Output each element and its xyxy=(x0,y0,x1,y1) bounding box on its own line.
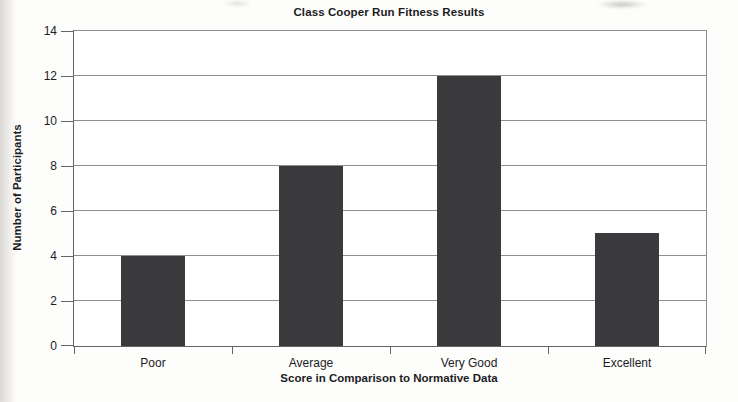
y-tick-10 xyxy=(61,121,74,122)
y-tick-label-10: 10 xyxy=(19,114,57,128)
y-tick-label-12: 12 xyxy=(19,69,57,83)
y-tick-label-2: 2 xyxy=(19,294,57,308)
y-tick-6 xyxy=(61,211,74,212)
x-tick-2 xyxy=(390,346,391,354)
y-tick-8 xyxy=(61,166,74,167)
category-label-average: Average xyxy=(232,356,390,370)
gridline-6 xyxy=(74,210,706,211)
plot-area: 02468101214PoorAverageVery GoodExcellent xyxy=(73,30,707,347)
bar-poor xyxy=(121,256,185,346)
y-axis-title: Number of Participants xyxy=(11,108,26,268)
y-tick-label-0: 0 xyxy=(19,339,57,353)
y-tick-4 xyxy=(61,256,74,257)
chart-title: Class Cooper Run Fitness Results xyxy=(73,6,705,18)
y-tick-label-4: 4 xyxy=(19,249,57,263)
x-tick-1 xyxy=(232,346,233,354)
bar-very-good xyxy=(437,76,501,346)
x-tick-0 xyxy=(74,346,75,354)
category-label-excellent: Excellent xyxy=(548,356,706,370)
category-label-very-good: Very Good xyxy=(390,356,548,370)
bar-average xyxy=(279,166,343,346)
y-tick-12 xyxy=(61,76,74,77)
x-tick-4 xyxy=(705,346,706,354)
category-label-poor: Poor xyxy=(74,356,232,370)
y-tick-14 xyxy=(61,31,74,32)
gridline-12 xyxy=(74,75,706,76)
x-tick-3 xyxy=(548,346,549,354)
chart-page: Class Cooper Run Fitness Results Number … xyxy=(0,0,738,402)
y-tick-0 xyxy=(61,345,74,346)
bar-excellent xyxy=(595,233,659,346)
y-tick-label-6: 6 xyxy=(19,204,57,218)
gridline-8 xyxy=(74,165,706,166)
gridline-10 xyxy=(74,120,706,121)
y-tick-label-8: 8 xyxy=(19,159,57,173)
y-tick-label-14: 14 xyxy=(19,24,57,38)
x-axis-title: Score in Comparison to Normative Data xyxy=(73,372,705,384)
y-tick-2 xyxy=(61,301,74,302)
